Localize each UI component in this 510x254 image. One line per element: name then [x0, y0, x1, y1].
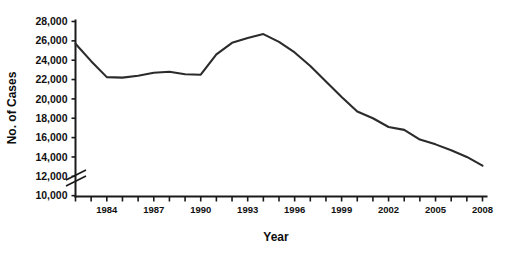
y-axis-tick-labels: 28,00026,00024,00022,00020,00018,00016,0…	[35, 15, 67, 201]
x-axis-group: 198419871990199319961999200220052008	[76, 197, 494, 216]
line-chart-canvas: 28,00026,00024,00022,00020,00018,00016,0…	[0, 0, 510, 254]
y-axis-title: No. of Cases	[5, 71, 19, 144]
data-series-line	[76, 34, 483, 166]
x-axis-tick-label: 1987	[143, 204, 164, 215]
chart-figure: 28,00026,00024,00022,00020,00018,00016,0…	[0, 0, 510, 254]
y-axis-tick-label: 24,000	[35, 54, 67, 66]
x-axis-tick-label: 1984	[96, 204, 118, 215]
y-axis-tick-label: 20,000	[35, 93, 67, 105]
y-axis-group: 28,00026,00024,00022,00020,00018,00016,0…	[35, 15, 86, 201]
y-axis-tick-label: 22,000	[35, 73, 67, 85]
x-axis-tick-label: 1996	[284, 204, 305, 215]
y-axis-tick-label: 28,000	[35, 15, 67, 27]
x-axis-tick-label: 2005	[425, 204, 447, 215]
x-axis-tick-label: 2008	[472, 204, 493, 215]
x-axis-tick-labels: 198419871990199319961999200220052008	[96, 204, 493, 215]
y-axis-tick-label: 16,000	[35, 131, 67, 143]
y-axis-tick-label: 26,000	[35, 34, 67, 46]
y-axis-tick-label: 10,000	[35, 189, 67, 201]
x-axis-title: Year	[263, 230, 289, 244]
y-axis-tick-label: 12,000	[35, 170, 67, 182]
x-axis-tick-label: 2002	[378, 204, 399, 215]
y-axis-tick-label: 18,000	[35, 112, 67, 124]
x-axis-tick-label: 1990	[190, 204, 211, 215]
y-axis-tick-label: 14,000	[35, 151, 67, 163]
x-axis-tick-label: 1999	[331, 204, 352, 215]
x-axis-tick-label: 1993	[237, 204, 258, 215]
